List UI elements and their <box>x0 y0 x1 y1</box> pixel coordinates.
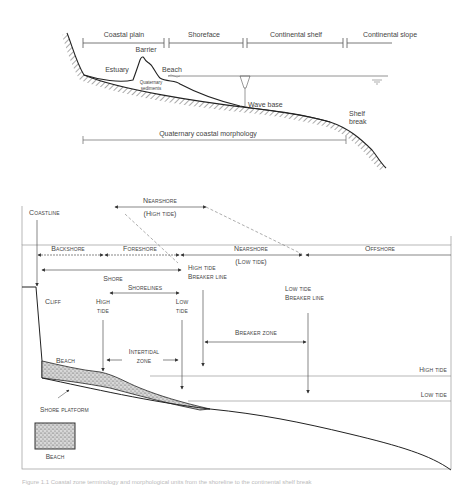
figure-caption: Figure 1.1 Coastal zone terminology and … <box>22 479 462 487</box>
wave-base-indicator <box>240 76 250 88</box>
shelf-break-label-1: Shelf <box>349 110 365 117</box>
zone-continental-slope: Continental slope <box>363 31 417 39</box>
shore-label: Shore <box>103 275 123 282</box>
seabed-profile <box>42 378 451 470</box>
high-tide-shoreline-label-2: tide <box>97 307 109 314</box>
bedrock-surface <box>67 33 386 168</box>
cliff-profile <box>22 287 42 378</box>
quaternary-coastal-morphology-label: Quaternary coastal morphology <box>159 130 257 138</box>
diagram-frame <box>22 245 451 469</box>
high-tide-breaker-label-1: High tide <box>188 264 216 271</box>
bottom-terminology-diagram: Nearshore (High tide) Coastline Backshor… <box>22 197 451 470</box>
beach-label: Beach <box>162 66 182 73</box>
high-tide-shoreline-label-1: High <box>96 298 110 305</box>
low-tide-shoreline-label-2: tide <box>176 307 188 314</box>
nearshore-high-sublabel: (High tide) <box>143 210 176 218</box>
zone-shoreface: Shoreface <box>188 31 220 38</box>
backshore-label: Backshore <box>51 245 85 252</box>
offshore-label: Offshore <box>365 245 396 252</box>
high-tide-level-label: High tide <box>419 366 447 373</box>
low-tide-level-label: Low tide <box>421 391 448 398</box>
coastal-diagram: Coastal plain Shoreface Continental shel… <box>0 0 473 492</box>
zone-bar <box>83 38 392 48</box>
shelf-break-label-2: break <box>349 118 367 125</box>
foreshore-label: Foreshore <box>123 245 157 252</box>
low-tide-shoreline-label-1: Low <box>176 298 189 305</box>
intertidal-label-1: Intertidal <box>129 348 160 355</box>
nearshore-high-label: Nearshore <box>143 197 178 204</box>
quaternary-sediments-label-1: Quaternary <box>140 80 163 85</box>
low-tide-breaker-label-1: Low tide <box>285 285 312 292</box>
intertidal-label-2: zone <box>137 357 152 364</box>
zone-coastal-plain: Coastal plain <box>104 31 145 39</box>
cliff-label: Cliff <box>45 298 61 305</box>
quaternary-sediments-label-2: sediments <box>141 86 162 91</box>
water-level-symbol <box>372 80 382 84</box>
breaker-zone-label: Breaker zone <box>235 329 277 336</box>
low-tide-breaker-label-2: Breaker line <box>285 294 325 301</box>
shore-platform-pointer <box>58 390 69 398</box>
zone-continental-shelf: Continental shelf <box>270 31 322 38</box>
beach-deposit <box>42 361 210 410</box>
barrier-label: Barrier <box>135 46 157 53</box>
estuary-label: Estuary <box>105 66 129 74</box>
wave-base-label: Wave base <box>248 101 283 108</box>
quaternary-extent-bar <box>83 136 346 144</box>
legend-beach-label: Beach <box>46 453 65 460</box>
shore-platform-label: Shore platform <box>40 406 89 413</box>
nearshore-low-label: Nearshore <box>234 245 269 252</box>
legend-beach-swatch <box>35 423 75 449</box>
coastline-label: Coastline <box>29 209 60 216</box>
top-profile-diagram: Coastal plain Shoreface Continental shel… <box>62 31 417 170</box>
high-tide-breaker-label-2: Breaker line <box>188 273 228 280</box>
beach-label: Beach <box>56 357 75 364</box>
shorelines-label: Shorelines <box>128 284 163 291</box>
nearshore-low-sublabel: (Low tide) <box>235 258 267 266</box>
